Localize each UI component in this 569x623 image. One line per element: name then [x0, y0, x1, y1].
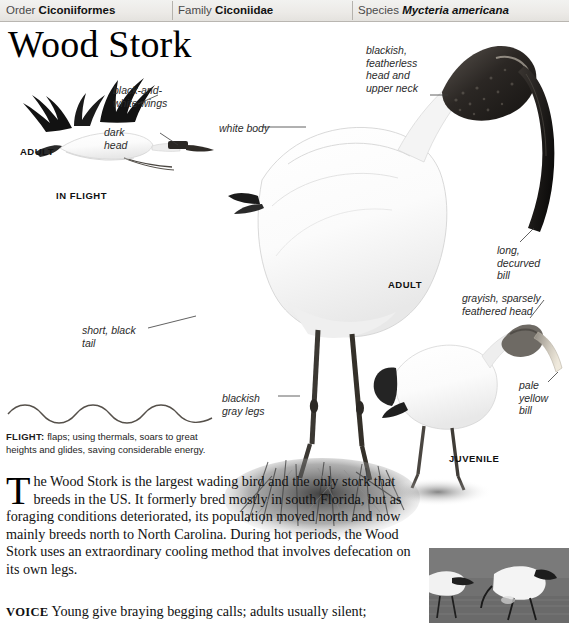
annotation-blackish-head: blackish, featherless head and upper nec… [366, 44, 418, 94]
order-label: Order [6, 4, 35, 16]
page-title: Wood Stork [8, 22, 192, 66]
flight-pattern-wave [6, 404, 220, 428]
foraging-photo [424, 548, 569, 623]
taxonomy-order: Order Ciconiiformes [6, 0, 115, 21]
flight-description: FLIGHT: flaps; using thermals, soars to … [6, 431, 224, 456]
description-first-line: he Wood Stork is the largest wading bird… [33, 473, 370, 489]
annotation-dark-head: dark head [104, 126, 127, 151]
family-label: Family [178, 4, 212, 16]
annotation-blackish-gray-legs: blackish gray legs [222, 392, 265, 417]
annotation-juvenile-head: grayish, sparsely feathered head [462, 292, 541, 317]
header-divider-2 [352, 1, 353, 20]
order-value: Ciconiiformes [39, 4, 116, 16]
species-label: Species [358, 4, 399, 16]
species-value: Mycteria americana [402, 4, 509, 16]
taxonomy-species: Species Mycteria americana [358, 0, 509, 21]
voice-label: VOICE [6, 605, 49, 619]
voice-section: VOICE Young give braying begging calls; … [6, 603, 436, 622]
caption-adult-flight: ADULT [20, 146, 54, 157]
annotation-white-body: white body [219, 122, 269, 135]
taxonomy-header: Order Ciconiiformes Family Ciconiidae Sp… [0, 0, 569, 22]
annotation-pale-yellow-bill: pale yellow bill [519, 379, 548, 417]
species-description: The Wood Stork is the largest wading bir… [6, 473, 426, 579]
annotation-black-and-white-wings: black-and- white wings [113, 84, 167, 109]
header-divider-1 [172, 1, 173, 20]
voice-text: Young give braying begging calls; adults… [49, 603, 367, 619]
caption-adult-main: ADULT [388, 279, 422, 290]
annotation-long-decurved-bill: long, decurved bill [497, 244, 540, 282]
taxonomy-family: Family Ciconiidae [178, 0, 273, 21]
caption-in-flight: IN FLIGHT [56, 190, 107, 201]
family-value: Ciconiidae [215, 4, 273, 16]
drop-cap: T [6, 473, 33, 507]
flight-label: FLIGHT: [6, 431, 45, 442]
annotation-short-black-tail: short, black tail [82, 324, 136, 349]
caption-juvenile: JUVENILE [449, 453, 499, 464]
leader-lines [138, 95, 558, 396]
